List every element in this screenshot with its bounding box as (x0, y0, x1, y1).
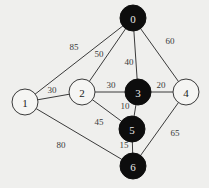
node-1: 1 (12, 89, 38, 115)
node-label: 0 (130, 13, 136, 25)
node-3: 3 (125, 79, 151, 105)
edge-weight-label: 80 (57, 140, 67, 150)
edge-weight-label: 30 (107, 80, 117, 90)
node-5: 5 (119, 116, 145, 142)
edge-1-6 (25, 102, 133, 166)
edge-weight-label: 65 (171, 128, 181, 138)
node-label: 3 (135, 87, 141, 99)
edge-weight-label: 30 (48, 85, 58, 95)
node-label: 1 (22, 97, 28, 109)
node-6: 6 (120, 153, 146, 179)
node-label: 2 (79, 87, 85, 99)
node-label: 4 (183, 87, 189, 99)
edge-weight-label: 10 (121, 101, 131, 111)
node-label: 6 (130, 161, 136, 173)
edge-weight-label: 50 (95, 49, 105, 59)
edge-labels-layer: 855040603030201045158065 (48, 36, 181, 150)
edge-weight-label: 60 (166, 36, 176, 46)
node-label: 5 (129, 124, 135, 136)
edge-weight-label: 40 (125, 57, 135, 67)
edge-weight-label: 85 (70, 42, 80, 52)
weighted-graph: 855040603030201045158065 0123456 (0, 0, 209, 188)
edge-weight-label: 45 (95, 117, 105, 127)
edge-weight-label: 20 (157, 80, 167, 90)
node-4: 4 (173, 79, 199, 105)
node-0: 0 (120, 5, 146, 31)
node-2: 2 (69, 79, 95, 105)
